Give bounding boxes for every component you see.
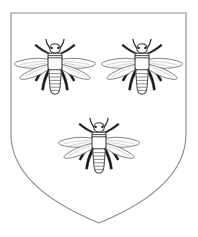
heraldic-illustration [0, 0, 198, 237]
